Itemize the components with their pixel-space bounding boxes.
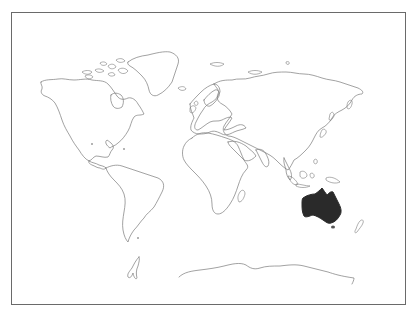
north-america-outline [41, 79, 144, 161]
madagascar-outline [238, 190, 245, 202]
central-america-outline [89, 161, 106, 169]
australia-highlighted [302, 188, 341, 223]
southeast-asia-outline [284, 158, 292, 180]
world-map [0, 0, 419, 310]
caribbean-islands [123, 148, 125, 150]
asia-outline [214, 72, 363, 170]
europe-outline [190, 84, 246, 135]
arabia-outline [228, 141, 256, 161]
iceland-outline [178, 87, 186, 91]
falkland-islands [137, 237, 139, 239]
south-america-outline [106, 165, 164, 242]
antarctic-peninsula-outline [128, 257, 140, 279]
hudson-bay-outline [111, 93, 124, 108]
arctic-islands [82, 59, 128, 79]
hawaii [91, 143, 93, 145]
india-outline [256, 149, 269, 167]
tasmania [331, 225, 335, 228]
greenland-outline [128, 52, 179, 96]
new-zealand-outline [355, 220, 363, 233]
indonesia-islands [288, 159, 340, 187]
africa-outline [183, 133, 248, 214]
antarctica-outline [179, 263, 354, 284]
